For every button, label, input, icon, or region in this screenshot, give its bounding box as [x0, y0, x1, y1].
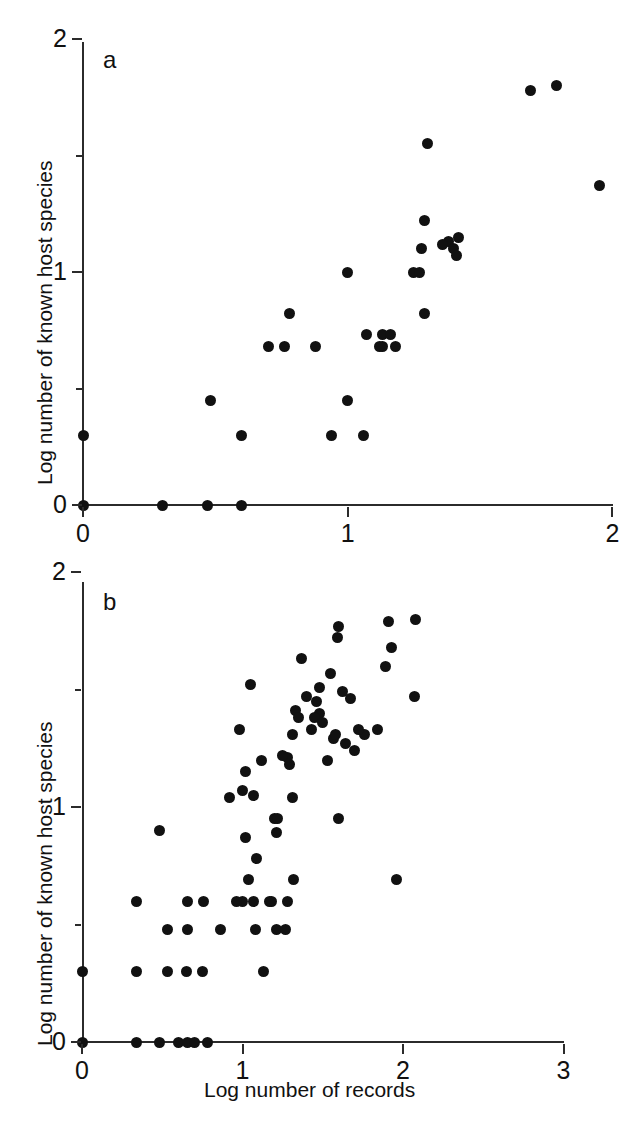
data-point: [551, 80, 562, 91]
panel-a-plot-area: [0, 0, 636, 556]
x-tick-label-b-0: 0: [62, 1058, 102, 1083]
data-point: [374, 341, 385, 352]
data-point: [287, 792, 298, 803]
data-point: [310, 341, 321, 352]
data-point: [198, 896, 209, 907]
data-point: [296, 653, 307, 664]
data-point: [410, 614, 421, 625]
x-tick-label-a-1: 1: [328, 521, 368, 546]
x-tick-label-b-3: 3: [544, 1058, 584, 1083]
data-point: [306, 724, 317, 735]
data-point: [162, 924, 173, 935]
data-point: [372, 724, 383, 735]
x-tick-label-a-0: 0: [63, 521, 103, 546]
data-point: [182, 896, 193, 907]
data-point: [157, 500, 168, 511]
data-point: [240, 832, 251, 843]
x-tick-a-2: [611, 507, 613, 517]
x-tick-a-1: [347, 507, 349, 517]
data-point: [409, 691, 420, 702]
data-point: [282, 896, 293, 907]
data-point: [77, 966, 88, 977]
data-point: [293, 712, 304, 723]
data-point: [162, 966, 173, 977]
data-point: [243, 874, 254, 885]
data-point: [277, 750, 288, 761]
y-tick-label-b-2: 2: [26, 559, 66, 584]
data-point: [451, 250, 462, 261]
data-point: [361, 329, 372, 340]
x-tick-label-a-2: 2: [592, 521, 632, 546]
y-minor-tick-a-0: [76, 388, 82, 390]
data-point: [437, 239, 448, 250]
data-point: [189, 1037, 200, 1048]
data-point: [280, 924, 291, 935]
x-tick-a-0: [82, 507, 84, 517]
data-point: [314, 682, 325, 693]
data-point: [205, 395, 216, 406]
data-point: [594, 180, 605, 191]
data-point: [248, 896, 259, 907]
data-point: [266, 896, 277, 907]
data-point: [385, 329, 396, 340]
y-tick-a-2: [72, 38, 82, 40]
data-point: [416, 243, 427, 254]
y-minor-tick-b-1: [75, 689, 81, 691]
data-point: [271, 827, 282, 838]
data-point: [340, 738, 351, 749]
data-point: [202, 1037, 213, 1048]
y-tick-b-2: [71, 571, 81, 573]
data-point: [258, 966, 269, 977]
y-minor-tick-b-0: [75, 924, 81, 926]
data-point: [279, 341, 290, 352]
scatter-figure: Log number of known host species a 01201…: [0, 0, 636, 1137]
data-point: [224, 792, 235, 803]
data-point: [342, 267, 353, 278]
data-point: [349, 745, 360, 756]
data-point: [251, 853, 262, 864]
data-point: [250, 924, 261, 935]
data-point: [215, 924, 226, 935]
y-tick-label-a-1: 1: [27, 259, 67, 284]
data-point: [383, 616, 394, 627]
data-point: [326, 430, 337, 441]
y-tick-a-1: [72, 271, 82, 273]
data-point: [342, 395, 353, 406]
data-point: [197, 966, 208, 977]
y-tick-label-a-2: 2: [27, 26, 67, 51]
y-tick-b-1: [71, 806, 81, 808]
data-point: [248, 790, 259, 801]
x-tick-b-3: [563, 1044, 565, 1054]
panel-b-plot-area: [0, 556, 636, 1137]
data-point: [333, 813, 344, 824]
data-point: [311, 696, 322, 707]
y-tick-b-0: [71, 1041, 81, 1043]
data-point: [422, 138, 433, 149]
data-point: [419, 215, 430, 226]
x-tick-b-1: [242, 1044, 244, 1054]
data-point: [353, 724, 364, 735]
data-point: [386, 642, 397, 653]
data-point: [325, 668, 336, 679]
data-point: [231, 896, 242, 907]
x-tick-b-2: [402, 1044, 404, 1054]
data-point: [181, 966, 192, 977]
y-tick-label-b-0: 0: [26, 1029, 66, 1054]
y-tick-a-0: [72, 504, 82, 506]
y-tick-label-a-0: 0: [27, 492, 67, 517]
panel-a: a 012012: [0, 0, 636, 556]
data-point: [333, 621, 344, 632]
data-point: [234, 724, 245, 735]
data-point: [414, 267, 425, 278]
y-tick-label-b-1: 1: [26, 794, 66, 819]
data-point: [182, 924, 193, 935]
data-point: [202, 500, 213, 511]
data-point: [453, 232, 464, 243]
data-point: [131, 1037, 142, 1048]
data-point: [131, 896, 142, 907]
data-point: [154, 825, 165, 836]
y-minor-tick-a-1: [76, 155, 82, 157]
data-point: [317, 717, 328, 728]
data-point: [288, 874, 299, 885]
x-tick-b-0: [81, 1044, 83, 1054]
